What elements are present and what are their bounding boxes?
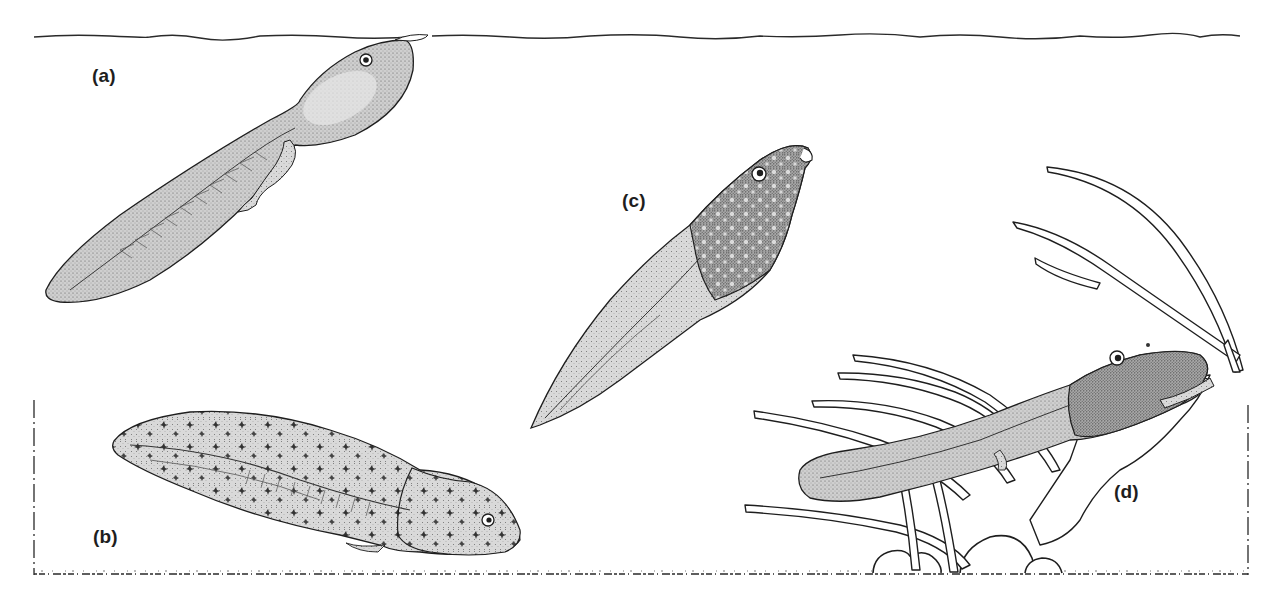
label-a: (a): [92, 66, 116, 85]
substrate: [34, 571, 1248, 574]
rocks: [873, 536, 1062, 573]
label-d: (d): [1114, 482, 1139, 501]
label-b: (b): [93, 527, 118, 546]
water-surface: [34, 33, 1240, 40]
tadpole-illustration: (a) (b) (c) (d): [0, 0, 1281, 603]
tadpole-c: [531, 146, 812, 428]
illustration-canvas: [0, 0, 1281, 603]
label-c: (c): [622, 191, 646, 210]
tadpole-b: [113, 411, 521, 555]
